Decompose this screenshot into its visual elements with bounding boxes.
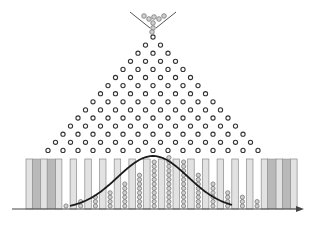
ball (108, 195, 112, 199)
peg (91, 132, 95, 136)
ball (152, 204, 156, 208)
ball (152, 200, 156, 204)
peg (83, 140, 87, 144)
peg (121, 132, 125, 136)
peg (136, 116, 140, 120)
peg (98, 140, 102, 144)
ball (182, 204, 186, 208)
ball (211, 186, 215, 190)
peg (158, 43, 162, 47)
peg (248, 140, 252, 144)
ball (93, 200, 97, 204)
empty-bin (47, 159, 55, 209)
peg (53, 140, 57, 144)
ball (123, 191, 127, 195)
bin-divider (261, 159, 268, 209)
ball (211, 191, 215, 195)
funnel-icon (130, 12, 176, 34)
peg (128, 140, 132, 144)
ball (108, 204, 112, 208)
peg (128, 124, 132, 128)
peg (203, 92, 207, 96)
peg (106, 100, 110, 104)
peg (113, 92, 117, 96)
peg (226, 148, 230, 152)
peg (211, 116, 215, 120)
peg (158, 140, 162, 144)
ball (182, 164, 186, 168)
ball (137, 186, 141, 190)
peg (233, 124, 237, 128)
peg (188, 124, 192, 128)
ball (152, 164, 156, 168)
ball (137, 191, 141, 195)
ball (226, 191, 230, 195)
ball (182, 200, 186, 204)
peg (136, 148, 140, 152)
peg (158, 92, 162, 96)
peg (83, 124, 87, 128)
empty-bin (33, 159, 41, 209)
peg (98, 124, 102, 128)
peg (128, 75, 132, 79)
peg (151, 116, 155, 120)
ball (137, 204, 141, 208)
bin-divider (144, 159, 151, 209)
peg (46, 148, 50, 152)
bin-divider (202, 159, 209, 209)
peg (181, 116, 185, 120)
peg (136, 51, 140, 55)
bin-divider (291, 159, 298, 209)
funnel-ball (152, 15, 157, 20)
peg (91, 100, 95, 104)
peg (196, 116, 200, 120)
peg (166, 148, 170, 152)
peg (113, 108, 117, 112)
ball (152, 186, 156, 190)
ball (123, 200, 127, 204)
peg (98, 92, 102, 96)
bin-divider (100, 159, 107, 209)
peg (91, 116, 95, 120)
ball (167, 169, 171, 173)
bin-divider (158, 159, 165, 209)
peg (173, 108, 177, 112)
ball (123, 195, 127, 199)
peg (188, 140, 192, 144)
peg (143, 92, 147, 96)
ball (211, 182, 215, 186)
ball (240, 204, 244, 208)
ball (182, 182, 186, 186)
peg (136, 100, 140, 104)
peg (166, 84, 170, 88)
ball (108, 191, 112, 195)
peg (173, 92, 177, 96)
peg (68, 124, 72, 128)
peg (121, 148, 125, 152)
bin-divider (55, 159, 62, 209)
ball (167, 186, 171, 190)
ball (152, 195, 156, 199)
peg (113, 124, 117, 128)
peg (173, 140, 177, 144)
peg (136, 84, 140, 88)
peg (181, 84, 185, 88)
peg (151, 35, 155, 39)
peg (196, 148, 200, 152)
peg (233, 140, 237, 144)
peg (76, 132, 80, 136)
ball (196, 204, 200, 208)
peg (98, 108, 102, 112)
ball (196, 191, 200, 195)
peg (128, 108, 132, 112)
collection-bins (26, 156, 297, 210)
ball (240, 200, 244, 204)
peg (166, 67, 170, 71)
peg-triangle (46, 35, 260, 153)
bin-divider (41, 159, 48, 209)
ball (137, 173, 141, 177)
peg (256, 148, 260, 152)
peg (128, 92, 132, 96)
ball (211, 204, 215, 208)
peg (136, 132, 140, 136)
